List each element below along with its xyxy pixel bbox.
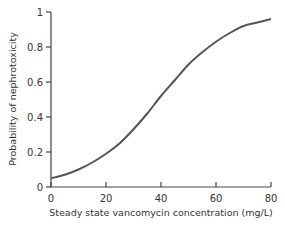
x-axis-label: Steady state vancomycin concentration (m… xyxy=(49,207,272,218)
line-chart: 00.20.40.60.81 020406080 Steady state va… xyxy=(0,0,285,227)
y-ticks: 00.20.40.60.81 xyxy=(27,7,51,193)
x-ticks: 020406080 xyxy=(48,182,278,204)
y-tick-label: 0.2 xyxy=(27,147,43,158)
y-tick-label: 1 xyxy=(37,7,43,18)
x-tick-label: 60 xyxy=(210,193,223,204)
x-tick-label: 0 xyxy=(48,193,54,204)
x-tick-label: 80 xyxy=(265,193,278,204)
y-tick-label: 0 xyxy=(37,182,43,193)
chart-container: 00.20.40.60.81 020406080 Steady state va… xyxy=(0,0,285,227)
probability-curve xyxy=(51,19,271,178)
axes xyxy=(51,12,271,187)
x-tick-label: 40 xyxy=(155,193,168,204)
y-tick-label: 0.8 xyxy=(27,42,43,53)
y-tick-label: 0.4 xyxy=(27,112,43,123)
x-tick-label: 20 xyxy=(100,193,113,204)
y-tick-label: 0.6 xyxy=(27,77,43,88)
y-axis-label: Probability of nephrotoxicity xyxy=(7,32,18,166)
